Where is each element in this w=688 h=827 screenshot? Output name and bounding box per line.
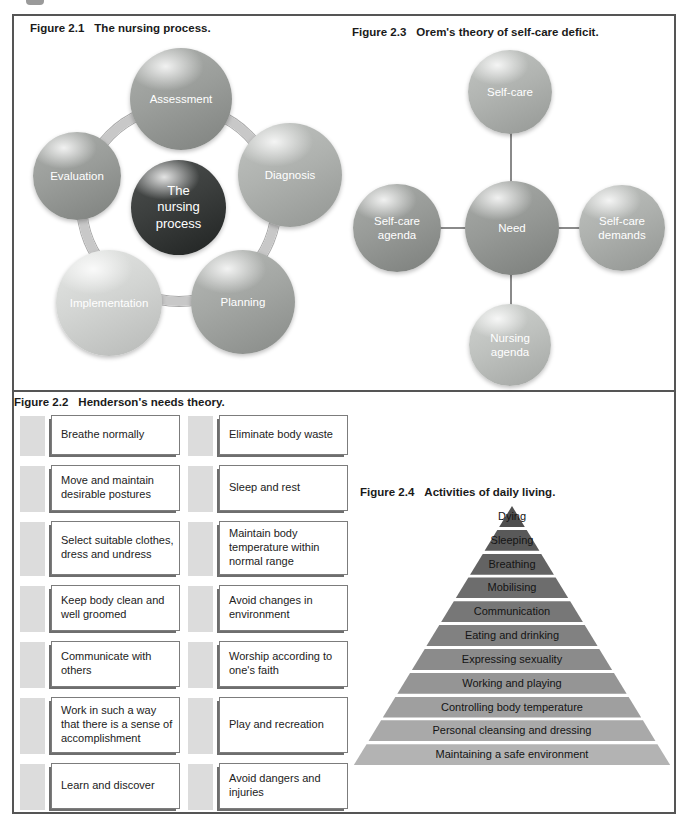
need-bullet-square xyxy=(20,586,45,632)
need-bullet-square xyxy=(188,416,213,456)
need-box: Learn and discover xyxy=(51,763,180,809)
figure-2-1-caption: Figure 2.1The nursing process. xyxy=(30,22,211,34)
need-item: Avoid dangers and injuries xyxy=(188,762,348,812)
figure-2-1-label: Figure 2.1 xyxy=(30,22,84,34)
figure-2-4-label: Figure 2.4 xyxy=(360,486,414,498)
need-bullet-square xyxy=(20,698,45,754)
node-diagnosis-label: Diagnosis xyxy=(255,168,326,182)
need-box: Move and maintain desirable postures xyxy=(51,465,180,511)
pyramid-layer-label: Sleeping xyxy=(352,530,672,551)
pyramid-layer: Controlling body temperature xyxy=(352,697,672,718)
need-bullet-square xyxy=(20,522,45,576)
need-box: Worship according to one's faith xyxy=(219,641,348,687)
connector-selfcare-need xyxy=(510,132,512,184)
need-item: Communicate with others xyxy=(20,640,180,690)
pyramid-layer: Personal cleansing and dressing xyxy=(352,720,672,741)
node-nursing-agenda-label: Nursing agenda xyxy=(469,331,551,360)
node-planning: Planning xyxy=(191,250,295,354)
pyramid-layer-label: Communication xyxy=(352,601,672,622)
need-box: Communicate with others xyxy=(51,641,180,687)
node-planning-label: Planning xyxy=(211,295,276,309)
henderson-needs-grid: Breathe normally Eliminate body waste Mo… xyxy=(20,414,348,812)
node-implementation: Implementation xyxy=(56,250,162,356)
figure-2-1-title: The nursing process. xyxy=(94,22,210,34)
need-box: Eliminate body waste xyxy=(219,415,348,455)
need-box: Keep body clean and well groomed xyxy=(51,585,180,631)
pyramid-layer-label: Mobilising xyxy=(352,577,672,598)
pyramid-layer: Working and playing xyxy=(352,673,672,694)
pyramid-layer-label: Breathing xyxy=(352,554,672,575)
pyramid-layer-label: Eating and drinking xyxy=(352,625,672,646)
pyramid-layer: Mobilising xyxy=(352,577,672,598)
need-bullet-square xyxy=(188,698,213,754)
node-nursing-process-label: The nursing process xyxy=(131,183,226,232)
node-self-care-demands: Self-care demands xyxy=(579,185,665,271)
need-box: Select suitable clothes, dress and undre… xyxy=(51,521,180,575)
node-nursing-agenda: Nursing agenda xyxy=(469,304,551,386)
need-box: Sleep and rest xyxy=(219,465,348,511)
need-bullet-square xyxy=(20,416,45,456)
need-item: Select suitable clothes, dress and undre… xyxy=(20,520,180,578)
pyramid-layer-label: Expressing sexuality xyxy=(352,649,672,670)
need-item: Learn and discover xyxy=(20,762,180,812)
pyramid-layer-label: Dying xyxy=(352,506,672,527)
page-edge-mark xyxy=(26,0,44,5)
pyramid-layer-label: Maintaining a safe environment xyxy=(352,744,672,765)
figure-2-2-title: Henderson's needs theory. xyxy=(78,396,224,408)
need-box: Avoid dangers and injuries xyxy=(219,763,348,809)
connector-need-nursing xyxy=(510,273,512,307)
need-bullet-square xyxy=(188,522,213,576)
node-diagnosis: Diagnosis xyxy=(238,123,342,227)
need-bullet-square xyxy=(20,642,45,688)
need-item: Play and recreation xyxy=(188,696,348,756)
pyramid-layer: Expressing sexuality xyxy=(352,649,672,670)
need-box: Maintain body temperature within normal … xyxy=(219,521,348,575)
pyramid-layer-label: Controlling body temperature xyxy=(352,697,672,718)
daily-living-pyramid: DyingSleepingBreathingMobilisingCommunic… xyxy=(352,506,672,768)
need-item: Sleep and rest xyxy=(188,464,348,514)
need-box: Play and recreation xyxy=(219,697,348,753)
need-item: Breathe normally xyxy=(20,414,180,458)
node-assessment-label: Assessment xyxy=(140,92,223,106)
need-bullet-square xyxy=(188,466,213,512)
node-self-care-demands-label: Self-care demands xyxy=(579,214,665,243)
node-need: Need xyxy=(465,181,559,275)
node-need-label: Need xyxy=(488,221,536,235)
figure-2-4-title: Activities of daily living. xyxy=(424,486,555,498)
figure-2-4-caption: Figure 2.4Activities of daily living. xyxy=(360,486,555,498)
node-evaluation-label: Evaluation xyxy=(40,169,114,183)
need-bullet-square xyxy=(188,586,213,632)
figure-2-2-caption: Figure 2.2Henderson's needs theory. xyxy=(14,396,225,408)
need-item: Worship according to one's faith xyxy=(188,640,348,690)
figure-2-3-caption: Figure 2.3Orem's theory of self-care def… xyxy=(352,26,599,38)
need-box: Breathe normally xyxy=(51,415,180,455)
node-self-care-label: Self-care xyxy=(477,85,543,99)
need-item: Avoid changes in environment xyxy=(188,584,348,634)
pyramid-layer: Sleeping xyxy=(352,530,672,551)
section-divider-line xyxy=(12,390,674,392)
pyramid-layer: Breathing xyxy=(352,554,672,575)
connector-agenda-need xyxy=(438,227,468,229)
node-self-care-agenda-label: Self-care agenda xyxy=(353,214,441,243)
node-assessment: Assessment xyxy=(130,48,232,150)
pyramid-layer: Maintaining a safe environment xyxy=(352,744,672,765)
node-implementation-label: Implementation xyxy=(66,296,153,310)
need-item: Eliminate body waste xyxy=(188,414,348,458)
need-box: Work in such a way that there is a sense… xyxy=(51,697,180,753)
pyramid-layer: Dying xyxy=(352,506,672,527)
need-bullet-square xyxy=(188,764,213,810)
pyramid-layer: Eating and drinking xyxy=(352,625,672,646)
node-nursing-process-center: The nursing process xyxy=(131,160,226,255)
pyramid-layer-label: Personal cleansing and dressing xyxy=(352,720,672,741)
need-item: Work in such a way that there is a sense… xyxy=(20,696,180,756)
need-box: Avoid changes in environment xyxy=(219,585,348,631)
need-item: Maintain body temperature within normal … xyxy=(188,520,348,578)
need-bullet-square xyxy=(188,642,213,688)
node-self-care-agenda: Self-care agenda xyxy=(353,184,441,272)
book-page: Figure 2.1The nursing process. Assessmen… xyxy=(0,0,688,827)
need-bullet-square xyxy=(20,764,45,810)
need-item: Keep body clean and well groomed xyxy=(20,584,180,634)
pyramid-layer-label: Working and playing xyxy=(352,673,672,694)
figure-2-3-title: Orem's theory of self-care deficit. xyxy=(416,26,598,38)
figure-2-3-label: Figure 2.3 xyxy=(352,26,406,38)
